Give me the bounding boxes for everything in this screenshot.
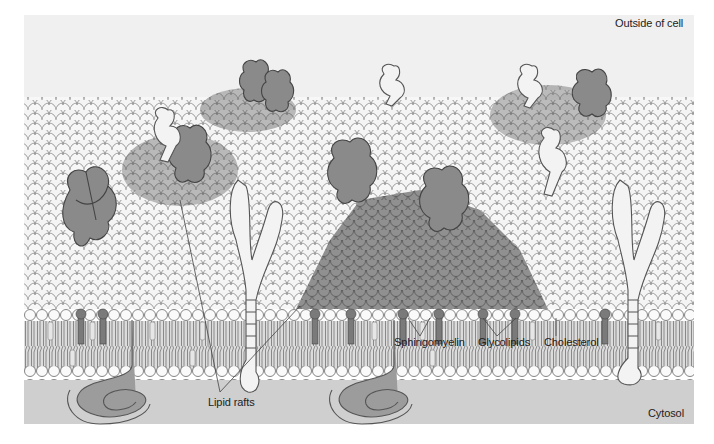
membrane-illustration <box>0 0 714 444</box>
cytosol-label: Cytosol <box>648 407 684 419</box>
outside-of-cell-label: Outside of cell <box>615 17 683 29</box>
gpi-anchored-protein <box>262 70 294 112</box>
sphingomyelin-label: Sphingomyelin <box>394 336 465 348</box>
outer-heads <box>24 307 694 321</box>
lipid-raft-diagram: Outside of cell Cytosol Sphingomyelin Gl… <box>0 0 714 444</box>
lipid-rafts-label: Lipid rafts <box>208 396 255 408</box>
cholesterol-label: Cholesterol <box>544 336 599 348</box>
glycolipids-label: Glycolipids <box>478 336 530 348</box>
